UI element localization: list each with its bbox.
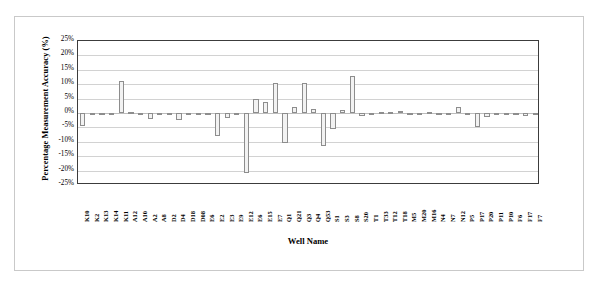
x-tick-label: T12 [392, 211, 398, 222]
bar [417, 113, 422, 115]
bar [80, 113, 85, 126]
bar [109, 113, 114, 115]
x-tick-label: A12 [132, 211, 138, 222]
y-tick-label: 20% [61, 51, 74, 58]
x-tick-label: M16 [431, 210, 437, 222]
x-tick-label: T1 [373, 215, 379, 222]
bar [456, 107, 461, 113]
bar [465, 113, 470, 115]
x-axis-title: Well Name [77, 236, 539, 246]
x-tick-label: S1 [334, 215, 340, 222]
x-tick-label: M5 [411, 213, 417, 222]
bar [234, 113, 239, 115]
bar [99, 113, 104, 115]
bar [513, 113, 518, 115]
bar [186, 113, 191, 115]
x-tick-label: S3 [344, 215, 350, 222]
bar [350, 76, 355, 113]
bar [379, 112, 384, 114]
x-tick-label: S20 [363, 212, 369, 222]
x-tick-label: Q1 [286, 214, 292, 222]
bar [176, 113, 181, 120]
x-tick-label: E6 [257, 215, 263, 222]
bar [494, 113, 499, 115]
y-axis-tick-labels: 25%20%15%10%5%0%-5%-10%-15%-20%-25% [46, 40, 74, 184]
y-tick-label: -5% [62, 123, 74, 130]
bar-series [78, 41, 538, 183]
x-tick-label: P10 [508, 212, 514, 222]
x-tick-label: Q21 [296, 211, 302, 222]
x-tick-label: N7 [450, 214, 456, 222]
x-tick-label: M20 [421, 210, 427, 222]
bar [253, 99, 258, 113]
bar [523, 113, 528, 116]
bar [273, 83, 278, 113]
x-tick-label: P11 [498, 212, 504, 222]
x-tick-label: K11 [123, 211, 129, 222]
x-tick-label: A8 [161, 214, 167, 222]
x-tick-label: T33 [383, 211, 389, 222]
x-tick-label: D18 [190, 211, 196, 222]
x-tick-label: E2 [219, 215, 225, 222]
bar [504, 113, 509, 115]
x-tick-label: E6 [209, 215, 215, 222]
chart-page: Percentage Measurement Accuracy (%) 25%2… [0, 0, 602, 287]
x-tick-label: N4 [440, 214, 446, 222]
bar [436, 113, 441, 115]
bar [302, 83, 307, 113]
bar [282, 113, 287, 143]
bar [263, 102, 268, 113]
x-tick-label: E7 [277, 215, 283, 222]
y-tick-label: -15% [58, 152, 74, 159]
x-tick-label: N12 [460, 211, 466, 222]
x-tick-label: E15 [267, 211, 273, 222]
x-tick-label: A2 [152, 214, 158, 222]
bar [446, 113, 451, 115]
bar [244, 113, 249, 173]
x-tick-label: F17 [527, 212, 533, 222]
x-tick-label: E12 [248, 211, 254, 222]
bar [369, 113, 374, 115]
x-tick-label: D4 [180, 214, 186, 222]
bar [225, 113, 230, 118]
bar [148, 113, 153, 119]
x-tick-label: D08 [200, 211, 206, 222]
bar [167, 113, 172, 115]
y-tick-label: 10% [61, 80, 74, 87]
plot-area [77, 40, 539, 184]
bar [340, 110, 345, 113]
bar [292, 107, 297, 113]
y-tick-label: -25% [58, 180, 74, 187]
x-axis-tick-labels: K10K2K13K14K11A12A10A2A8D2D4D18D08E6E2E3… [77, 186, 539, 226]
x-tick-label: K10 [84, 211, 90, 222]
bar [398, 111, 403, 113]
bar [215, 113, 220, 136]
x-tick-label: P20 [488, 212, 494, 222]
x-tick-label: Q3 [306, 214, 312, 222]
x-tick-label: E9 [238, 215, 244, 222]
bar [311, 109, 316, 113]
bar [119, 81, 124, 113]
x-tick-label: F7 [537, 215, 543, 222]
bar [475, 113, 480, 127]
x-tick-label: K14 [113, 211, 119, 222]
bar [138, 113, 143, 115]
x-tick-label: S8 [354, 215, 360, 222]
x-tick-label: A10 [142, 211, 148, 222]
bar [533, 113, 538, 115]
bar [388, 112, 393, 114]
bar [330, 113, 335, 129]
y-tick-label: 0% [64, 108, 74, 115]
bar [205, 113, 210, 115]
x-tick-label: F6 [517, 215, 523, 222]
x-tick-label: D2 [171, 214, 177, 222]
y-tick-label: 5% [64, 94, 74, 101]
y-tick-label: -10% [58, 137, 74, 144]
bar [484, 113, 489, 117]
x-tick-label: Q53 [325, 211, 331, 222]
bar [321, 113, 326, 146]
y-tick-label: 15% [61, 65, 74, 72]
bar [407, 113, 412, 115]
bar [157, 113, 162, 115]
x-tick-label: P17 [479, 212, 485, 222]
